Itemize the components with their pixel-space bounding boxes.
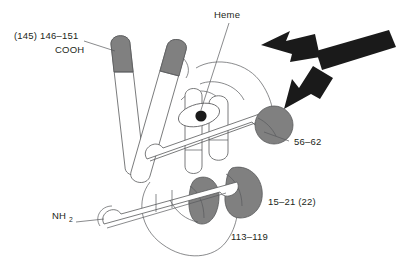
helix-56-62-cap: [255, 106, 293, 144]
helix-upper-second: [131, 39, 189, 182]
label-nh2-main: NH: [52, 210, 66, 221]
label-56-62: 56–62: [294, 136, 321, 147]
annotation-arrow-lower: [284, 66, 333, 109]
helix-rear-vertical: [185, 89, 202, 174]
globin-fold-diagram: (145) 146–151 COOH Heme 56–62 15–21 (22)…: [0, 0, 405, 276]
leader-cooh: [84, 41, 115, 51]
annotation-bar: [316, 30, 396, 70]
annotation-arrows: [261, 30, 396, 109]
annotation-arrow-upper: [261, 31, 320, 62]
label-cooh-range: (145) 146–151: [14, 30, 78, 41]
figure-root: n - - d: [0, 0, 405, 276]
label-heme: Heme: [214, 9, 240, 20]
label-cooh: COOH: [55, 44, 84, 55]
label-nh2: NH 2: [52, 210, 73, 223]
label-15-21: 15–21 (22): [268, 196, 316, 207]
helix-113-119: [189, 177, 219, 224]
heme-iron-dot: [195, 110, 206, 121]
leader-nh2: [76, 219, 104, 222]
label-113-119: 113–119: [231, 231, 268, 242]
label-nh2-subscript: 2: [69, 216, 73, 223]
